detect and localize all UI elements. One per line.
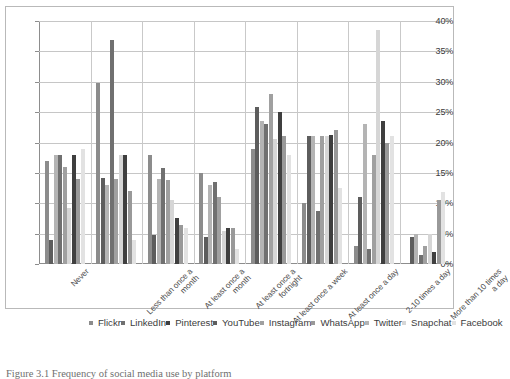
bar xyxy=(278,112,282,264)
bar xyxy=(419,255,423,264)
bar xyxy=(307,136,311,264)
legend-swatch-icon xyxy=(402,321,406,325)
legend-label: Pinterest xyxy=(175,316,213,330)
bar xyxy=(170,200,174,264)
legend-label: Facebook xyxy=(461,316,503,330)
bar xyxy=(287,155,291,264)
bar xyxy=(119,155,123,264)
bar-group xyxy=(245,21,297,264)
bar xyxy=(437,200,441,264)
chart-frame: 0%5%10%15%20%25%30%35%40% NeverLess than… xyxy=(5,6,454,309)
bar xyxy=(148,155,152,264)
chart-legend: FlickrLinkedInPinterestYouTubeInstagramW… xyxy=(5,316,454,358)
bar-group xyxy=(142,21,194,264)
group-separator xyxy=(400,21,401,264)
bar xyxy=(282,136,286,264)
bar xyxy=(45,161,49,264)
bar xyxy=(320,136,324,264)
bar xyxy=(410,237,414,264)
bar xyxy=(316,211,320,264)
bar xyxy=(432,252,436,264)
legend-item: Facebook xyxy=(452,316,503,330)
bar xyxy=(381,121,385,264)
bar xyxy=(54,155,58,264)
bar xyxy=(441,192,445,264)
bar xyxy=(76,179,80,264)
legend-item: Instagram xyxy=(260,316,312,330)
group-separator xyxy=(91,21,92,264)
bar xyxy=(184,228,188,264)
bar xyxy=(269,94,273,264)
bar xyxy=(58,155,62,264)
legend-item: Twitter xyxy=(365,316,402,330)
bar-group xyxy=(400,21,452,264)
bar xyxy=(363,124,367,264)
bar-group xyxy=(194,21,246,264)
x-axis-labels: NeverLess than once a monthAt least once… xyxy=(39,265,451,317)
legend-label: Flickr xyxy=(98,316,121,330)
bar xyxy=(166,180,170,264)
bar xyxy=(231,228,235,264)
legend-swatch-icon xyxy=(260,321,264,325)
bar xyxy=(114,179,118,264)
legend-label: LinkedIn xyxy=(130,316,166,330)
bar xyxy=(226,228,230,264)
legend-item: Snapchat xyxy=(402,316,452,330)
bar xyxy=(105,185,109,264)
legend-item: YouTube xyxy=(213,316,260,330)
bar xyxy=(385,143,389,265)
legend-swatch-icon xyxy=(452,321,456,325)
bar xyxy=(338,188,342,264)
legend-item: Pinterest xyxy=(166,316,213,330)
bar xyxy=(208,185,212,264)
legend-item: WhatsApp xyxy=(311,316,364,330)
group-separator xyxy=(245,21,246,264)
bar xyxy=(423,246,427,264)
legend-item: Flickr xyxy=(89,316,121,330)
legend-label: Twitter xyxy=(374,316,402,330)
bar-group xyxy=(39,21,91,264)
bar xyxy=(213,182,217,264)
bar xyxy=(49,240,53,264)
bar xyxy=(428,234,432,264)
x-axis-label: Never xyxy=(69,267,91,289)
bar xyxy=(354,246,358,264)
bar xyxy=(81,149,85,264)
bar xyxy=(376,30,380,264)
bar xyxy=(273,139,277,264)
legend-swatch-icon xyxy=(311,321,315,325)
bar xyxy=(217,197,221,264)
legend-swatch-icon xyxy=(365,321,369,325)
bar xyxy=(414,234,418,264)
bar xyxy=(175,218,179,264)
bar xyxy=(63,167,67,264)
group-separator xyxy=(194,21,195,264)
bar xyxy=(161,168,165,264)
bar xyxy=(329,135,333,264)
bar xyxy=(67,208,71,264)
legend-swatch-icon xyxy=(89,321,93,325)
plot-area xyxy=(39,21,451,264)
group-separator xyxy=(348,21,349,264)
bar xyxy=(235,249,239,264)
legend-label: WhatsApp xyxy=(320,316,364,330)
bar xyxy=(110,40,114,264)
bar xyxy=(264,124,268,264)
bar xyxy=(255,107,259,264)
bar xyxy=(367,249,371,264)
figure-caption: Figure 3.1 Frequency of social media use… xyxy=(6,368,231,379)
bar xyxy=(325,136,329,264)
group-separator xyxy=(297,21,298,264)
legend-item: LinkedIn xyxy=(121,316,166,330)
bar xyxy=(96,83,100,264)
legend-label: Snapchat xyxy=(411,316,452,330)
bar xyxy=(199,173,203,264)
bar xyxy=(334,130,338,264)
bar xyxy=(123,155,127,264)
bar xyxy=(132,240,136,264)
bar xyxy=(302,203,306,264)
bar xyxy=(358,197,362,264)
bar xyxy=(157,179,161,264)
bar xyxy=(260,121,264,264)
bar xyxy=(204,237,208,264)
